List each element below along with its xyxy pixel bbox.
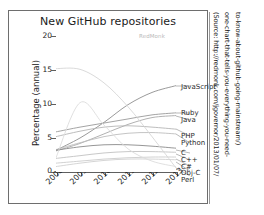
y-tick-label-5: 5 (12, 134, 52, 142)
y-tick-label-20: 20 (12, 32, 52, 40)
source-line-1: (Source: http://redmonk.com/jgovernor/20… (212, 12, 220, 176)
source-divider (209, 12, 210, 204)
plot-area (56, 36, 176, 172)
source-line-3: to-know-about-github-going-mainstream/) (234, 12, 242, 145)
redmonk-watermark: RedMonk (139, 33, 165, 39)
series-label-perl: Perl (181, 177, 194, 184)
source-line-2: one-chart-that-tells-you-everything-you-… (223, 12, 231, 157)
chart-title: New GitHub repositories (14, 15, 202, 28)
series-label-javascript: JavaScript (181, 84, 216, 91)
y-tick-label-0: 0 (12, 167, 52, 175)
series-lines (56, 36, 176, 172)
y-tick-label-10: 10 (12, 100, 52, 108)
series-line-javascript (56, 86, 176, 151)
y-axis-labels: 20 15 10 5 0 (8, 36, 52, 173)
source-caption: (Source: http://redmonk.com/jgovernor/20… (212, 12, 262, 204)
series-label-python: Python (181, 140, 205, 147)
series-line-c- (56, 157, 176, 163)
series-leader-lines (176, 36, 202, 176)
chart-figure: New GitHub repositories Percentage (annu… (0, 0, 264, 215)
y-tick-label-15: 15 (12, 66, 52, 74)
series-line-perl (56, 68, 176, 168)
series-label-java: Java (181, 117, 196, 124)
